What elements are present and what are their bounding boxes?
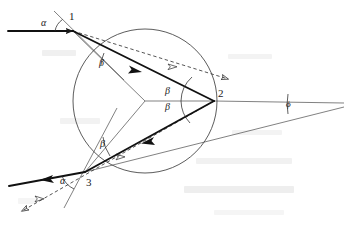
label-beta-2: β	[164, 85, 170, 96]
label-point-3: 3	[86, 176, 92, 188]
label-alpha-top: α	[41, 17, 47, 28]
angle-alpha-at-1-arc	[55, 20, 63, 32]
label-beta-3: β	[164, 101, 170, 112]
internal-ray-2-to-3	[85, 101, 214, 172]
refracted-ray-1-to-2	[73, 31, 214, 101]
undeviated-dashed-lines	[22, 31, 228, 211]
ray-path	[8, 31, 214, 186]
angle-beta-lower-at-2-arc	[181, 101, 190, 123]
radius-center-to-1	[73, 31, 145, 101]
label-point-1: 1	[69, 10, 75, 22]
normal-at-1-extended	[54, 11, 124, 80]
label-alpha-bottom: α	[60, 175, 66, 186]
ray-diagram-figure: α 1 β 2 β β β α 3 ϕ	[0, 0, 346, 226]
dashed-arrow-marker-upper	[168, 64, 177, 70]
arrowhead-ray-1-2	[128, 66, 142, 74]
axis-from-2	[214, 101, 344, 103]
label-point-2: 2	[218, 87, 224, 99]
label-phi: ϕ	[286, 99, 291, 109]
undeviated-extension-1	[73, 31, 228, 79]
label-beta-4: β	[99, 138, 105, 149]
label-beta-1: β	[98, 57, 104, 68]
optics-ray-diagram-canvas: α 1 β 2 β β β α 3 ϕ	[0, 0, 346, 226]
